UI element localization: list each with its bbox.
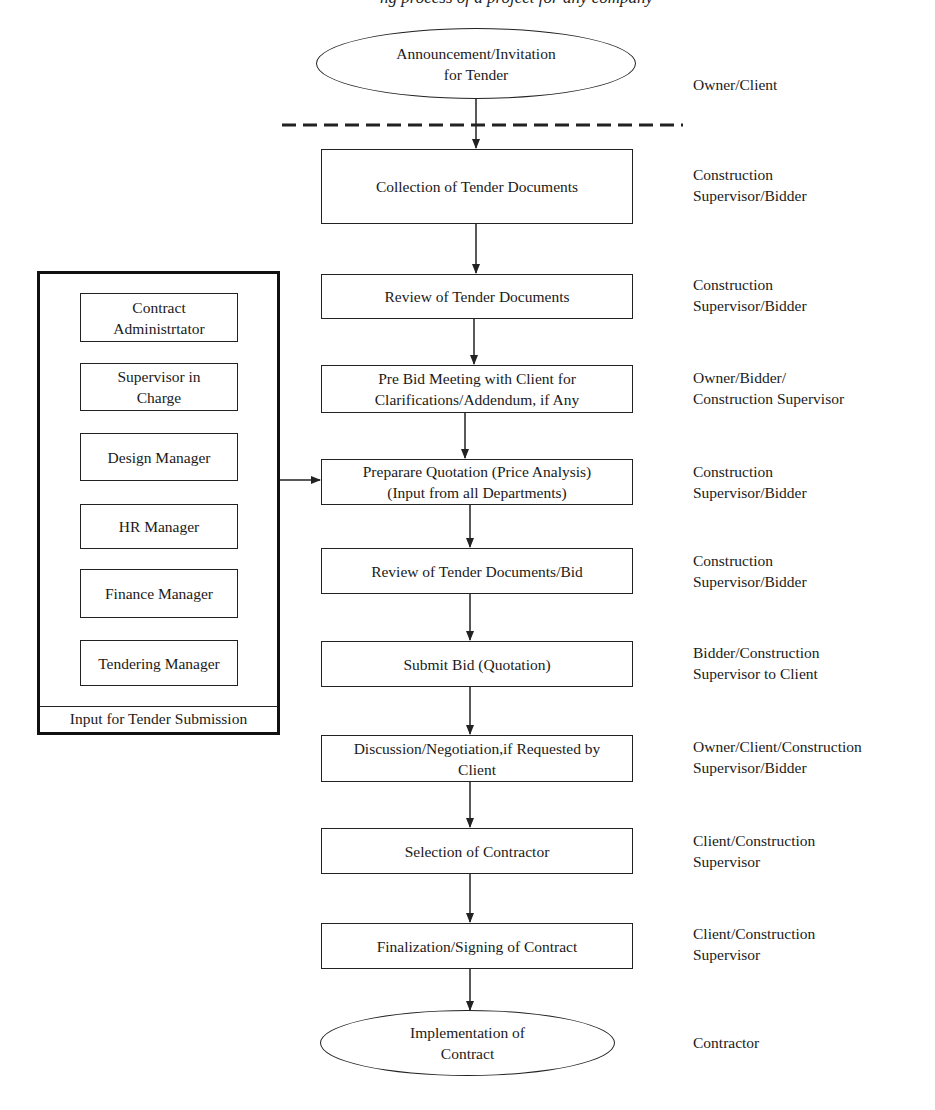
role-label-step-6: Bidder/Construction Supervisor to Client xyxy=(693,642,820,684)
dept-design-manager: Design Manager xyxy=(80,433,238,481)
role-label-step-5: Construction Supervisor/Bidder xyxy=(693,550,807,592)
role-label-step-9: Client/Construction Supervisor xyxy=(693,923,815,965)
role-label-step-8: Client/Construction Supervisor xyxy=(693,830,815,872)
role-label-step-1: Construction Supervisor/Bidder xyxy=(693,164,807,206)
role-label-step-7: Owner/Client/Construction Supervisor/Bid… xyxy=(693,736,862,778)
dept-finance-manager: Finance Manager xyxy=(80,569,238,618)
step-review-of-tender-documents: Review of Tender Documents xyxy=(321,274,633,319)
step-pre-bid-meeting: Pre Bid Meeting with Client for Clarific… xyxy=(321,365,633,413)
step-collection-of-tender-documents: Collection of Tender Documents xyxy=(321,149,633,224)
role-label-step-4: Construction Supervisor/Bidder xyxy=(693,461,807,503)
step-prepare-quotation: Preparare Quotation (Price Analysis) (In… xyxy=(321,459,633,505)
step-selection-of-contractor: Selection of Contractor xyxy=(321,828,633,874)
dept-supervisor-in-charge: Supervisor in Charge xyxy=(80,363,238,411)
role-label-step-3: Owner/Bidder/ Construction Supervisor xyxy=(693,367,844,409)
role-label-start: Owner/Client xyxy=(693,74,777,95)
input-for-tender-submission-panel: Contract Administrtator Supervisor in Ch… xyxy=(37,271,280,735)
step-finalization-signing: Finalization/Signing of Contract xyxy=(321,923,633,969)
dept-contract-administrator: Contract Administrtator xyxy=(80,293,238,342)
end-node-implementation: Implementation of Contract xyxy=(320,1010,615,1076)
step-review-tender-documents-bid: Review of Tender Documents/Bid xyxy=(321,548,633,594)
start-node-announcement: Announcement/Invitation for Tender xyxy=(316,28,636,99)
panel-caption: Input for Tender Submission xyxy=(40,706,277,732)
role-label-step-2: Construction Supervisor/Bidder xyxy=(693,274,807,316)
step-discussion-negotiation: Discussion/Negotiation,if Requested by C… xyxy=(321,735,633,782)
role-label-end: Contractor xyxy=(693,1032,759,1053)
step-submit-bid: Submit Bid (Quotation) xyxy=(321,641,633,687)
dept-hr-manager: HR Manager xyxy=(80,504,238,549)
dept-tendering-manager: Tendering Manager xyxy=(80,640,238,686)
